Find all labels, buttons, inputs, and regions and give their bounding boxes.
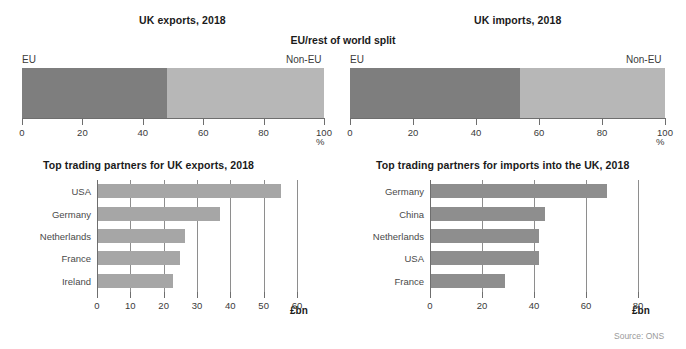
- exports-partners-xtick-50: [264, 292, 265, 298]
- exports-split-tick-label-20: 20: [77, 127, 88, 138]
- exports-partners-xtick-10: [130, 292, 131, 298]
- exports-split-tick-label-100: 100: [316, 127, 332, 138]
- imports-partners-xtick-label-80: 80: [633, 300, 644, 311]
- imports-partners-category-label-china: China: [338, 208, 424, 219]
- exports-partners-category-label-ireland: Ireland: [5, 275, 91, 286]
- panel-title-exports-split: UK exports, 2018: [139, 14, 226, 26]
- imports-split-tick-100: [665, 118, 666, 125]
- exports-split-tick-0: [22, 118, 23, 125]
- panel-title-exports-partners: Top trading partners for UK exports, 201…: [43, 159, 254, 171]
- imports-split-tick-20: [413, 118, 414, 125]
- imports-partners-bar-netherlands: [431, 229, 539, 243]
- imports-partners-category-label-netherlands: Netherlands: [338, 231, 424, 242]
- exports-split-tick-60: [203, 118, 204, 125]
- exports-partners-category-label-germany: Germany: [5, 208, 91, 219]
- imports-partners-bar-china: [431, 207, 545, 221]
- panel-title-imports-partners: Top trading partners for imports into th…: [376, 159, 629, 171]
- exports-split-stacked-bar: [22, 68, 324, 118]
- exports-split-eu-label: EU: [22, 54, 36, 65]
- exports-split-tick-40: [143, 118, 144, 125]
- imports-split-tick-label-80: 80: [597, 127, 608, 138]
- imports-partners-gridline-80: [638, 180, 639, 292]
- imports-split-tick-0: [350, 118, 351, 125]
- imports-split-eu-label: EU: [350, 54, 364, 65]
- exports-partners-xtick-label-0: 0: [94, 300, 99, 311]
- exports-split-tick-20: [82, 118, 83, 125]
- figure-canvas: EU/rest of world split UK exports, 2018 …: [0, 0, 686, 349]
- exports-partners-gridline-60: [297, 180, 298, 292]
- exports-partners-category-label-netherlands: Netherlands: [5, 231, 91, 242]
- source-note: Source: ONS: [614, 331, 664, 341]
- imports-split-tick-label-0: 0: [347, 127, 352, 138]
- imports-partners-category-label-france: France: [338, 275, 424, 286]
- exports-split-tick-label-60: 60: [198, 127, 209, 138]
- imports-split-non-eu-label: Non-EU: [626, 54, 662, 65]
- imports-split-segment-non-eu: [520, 68, 665, 118]
- exports-partners-category-label-usa: USA: [5, 186, 91, 197]
- exports-partners-bar-usa: [98, 184, 281, 198]
- imports-split-tick-60: [539, 118, 540, 125]
- imports-split-tick-80: [602, 118, 603, 125]
- imports-partners-xtick-60: [586, 292, 587, 298]
- exports-partners-xtick-label-20: 20: [158, 300, 169, 311]
- imports-partners-xtick-40: [534, 292, 535, 298]
- imports-split-stacked-bar: [350, 68, 665, 118]
- exports-split-tick-label-80: 80: [258, 127, 269, 138]
- exports-partners-category-label-france: France: [5, 253, 91, 264]
- imports-partners-xtick-80: [638, 292, 639, 298]
- panel-title-imports-split: UK imports, 2018: [474, 14, 561, 26]
- exports-partners-xtick-0: [97, 292, 98, 298]
- exports-partners-xtick-label-10: 10: [125, 300, 136, 311]
- exports-partners-xtick-20: [164, 292, 165, 298]
- exports-partners-xtick-label-30: 30: [192, 300, 203, 311]
- exports-partners-bar-netherlands: [98, 229, 185, 243]
- imports-partners-bar-usa: [431, 251, 539, 265]
- imports-split-segment-eu: [350, 68, 520, 118]
- exports-split-baseline: [22, 118, 324, 119]
- imports-partners-bar-germany: [431, 184, 607, 198]
- exports-partners-xtick-60: [297, 292, 298, 298]
- exports-partners-bar-ireland: [98, 274, 173, 288]
- imports-split-baseline: [350, 118, 665, 119]
- figure-center-title: EU/rest of world split: [0, 34, 686, 46]
- exports-split-tick-100: [324, 118, 325, 125]
- imports-split-tick-40: [476, 118, 477, 125]
- imports-partners-xtick-label-40: 40: [529, 300, 540, 311]
- exports-split-tick-80: [264, 118, 265, 125]
- imports-partners-xtick-0: [430, 292, 431, 298]
- exports-partners-xtick-40: [230, 292, 231, 298]
- imports-partners-xtick-label-20: 20: [477, 300, 488, 311]
- exports-partners-xtick-30: [197, 292, 198, 298]
- imports-partners-xtick-20: [482, 292, 483, 298]
- exports-partners-xtick-label-60: 60: [292, 300, 303, 311]
- imports-split-tick-label-60: 60: [534, 127, 545, 138]
- exports-split-segment-non-eu: [167, 68, 324, 118]
- imports-partners-category-label-usa: USA: [338, 253, 424, 264]
- imports-partners-xtick-label-60: 60: [581, 300, 592, 311]
- imports-partners-bar-france: [431, 274, 505, 288]
- imports-partners-category-label-germany: Germany: [338, 186, 424, 197]
- exports-split-non-eu-label: Non-EU: [286, 54, 322, 65]
- imports-partners-xtick-label-0: 0: [427, 300, 432, 311]
- imports-split-tick-label-40: 40: [471, 127, 482, 138]
- exports-partners-bar-france: [98, 251, 180, 265]
- exports-partners-xtick-label-40: 40: [225, 300, 236, 311]
- exports-partners-xtick-label-50: 50: [258, 300, 269, 311]
- exports-partners-bar-germany: [98, 207, 220, 221]
- exports-split-segment-eu: [22, 68, 167, 118]
- imports-split-tick-label-100: 100: [657, 127, 673, 138]
- exports-split-tick-label-40: 40: [138, 127, 149, 138]
- imports-split-tick-label-20: 20: [408, 127, 419, 138]
- exports-split-tick-label-0: 0: [19, 127, 24, 138]
